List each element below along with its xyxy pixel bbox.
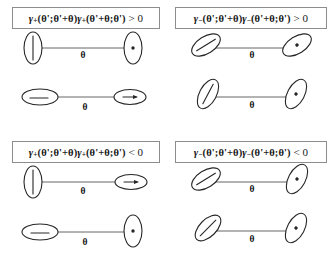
spin-ellipse-right: [124, 32, 142, 64]
panel-diagram: θ θ: [166, 0, 332, 134]
spin-configuration-figure: γ+(θ';θ'+θ)γ+(θ'+θ;θ') > 0 θ: [0, 0, 332, 268]
angle-label: θ: [83, 102, 88, 112]
spin-ellipse-left: [22, 89, 58, 105]
spin-ellipse-right: [281, 210, 311, 246]
spin-pair-row: θ: [24, 32, 142, 64]
angle-label: θ: [250, 50, 255, 60]
panel-gamma-plus-positive: γ+(θ';θ'+θ)γ+(θ'+θ;θ') > 0 θ: [0, 0, 166, 134]
spin-ellipse-right: [114, 90, 146, 105]
panel-diagram: θ θ: [0, 0, 166, 134]
spin-ellipse-left: [24, 166, 42, 198]
spin-pair-row: θ: [22, 215, 142, 247]
spin-ellipse-left: [24, 32, 42, 64]
spin-out-of-plane-dot: [131, 46, 134, 49]
spin-pair-row: θ: [191, 210, 311, 246]
spin-ellipse-left: [188, 163, 224, 194]
spin-pair-row: θ: [193, 76, 311, 112]
spin-ellipse-left: [191, 211, 226, 246]
spin-ellipse-left: [22, 224, 58, 240]
spin-out-of-plane-dot: [131, 229, 134, 232]
angle-label: θ: [250, 100, 255, 110]
angle-label: θ: [81, 186, 86, 196]
spin-ellipse-right: [279, 29, 315, 60]
panel-gamma-minus-positive: γ−(θ';θ'+θ)γ−(θ'+θ;θ') > 0 θ: [166, 0, 332, 134]
spin-ellipse-right: [115, 175, 147, 190]
angle-label: θ: [250, 184, 255, 194]
spin-ellipse-right: [124, 215, 142, 247]
angle-label: θ: [83, 237, 88, 247]
angle-label: θ: [81, 50, 86, 60]
spin-ellipse-left: [188, 29, 224, 60]
spin-pair-row: θ: [188, 161, 312, 197]
spin-ellipse-right: [281, 76, 311, 112]
spin-ellipse-left: [193, 76, 223, 112]
spin-pair-row: θ: [22, 89, 146, 112]
spin-pair-row: θ: [24, 166, 147, 198]
angle-label: θ: [250, 234, 255, 244]
panel-gamma-plus-negative: γ+(θ';θ'+θ)γ+(θ'+θ;θ') < 0 θ: [0, 134, 166, 268]
spin-pair-row: θ: [188, 29, 315, 60]
panel-diagram: θ θ: [0, 134, 166, 268]
panel-gamma-minus-negative: γ−(θ';θ'+θ)γ−(θ'+θ;θ') < 0 θ: [166, 134, 332, 268]
panel-diagram: θ θ: [166, 134, 332, 268]
spin-ellipse-right: [282, 161, 312, 197]
